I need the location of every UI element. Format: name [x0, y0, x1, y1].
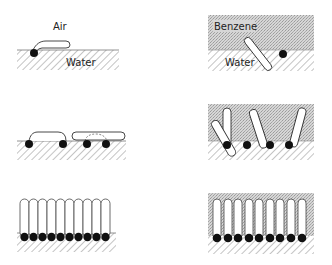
molecule-head — [266, 141, 274, 149]
molecule-head — [243, 141, 251, 149]
molecule-tail — [72, 132, 125, 140]
molecule-head — [223, 141, 231, 149]
molecule-head — [59, 140, 67, 148]
molecule-head — [279, 50, 287, 58]
panel-benzene-water-close-packed — [208, 193, 314, 254]
molecule-tail — [29, 132, 66, 141]
molecule-head — [83, 140, 91, 148]
molecule-tails — [213, 199, 306, 239]
label-benzene: Benzene — [214, 21, 257, 32]
panel-air-water-single: Air Water — [17, 21, 119, 70]
label-water: Water — [225, 57, 255, 68]
molecule-tails — [20, 199, 110, 237]
surfactant-diagram: Air Water Benzene Water — [0, 0, 332, 265]
label-air: Air — [53, 21, 68, 32]
molecule-head — [102, 140, 110, 148]
panel-benzene-water-low-density — [208, 104, 314, 160]
molecule-head — [285, 141, 293, 149]
molecule-head — [30, 49, 38, 57]
molecule-heads — [213, 234, 307, 243]
molecule-head — [25, 140, 33, 148]
label-water: Water — [66, 57, 96, 68]
panel-benzene-water-single: Benzene Water — [208, 15, 314, 72]
panel-air-water-close-packed — [17, 199, 116, 252]
panel-air-water-low-density — [17, 132, 126, 160]
